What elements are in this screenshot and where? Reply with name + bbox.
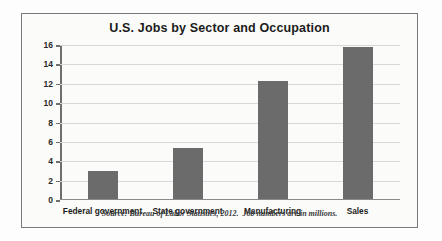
plot-area: 0246810121416 Federal governmentState go… (60, 45, 400, 200)
y-axis-tick (56, 64, 60, 66)
y-axis-tick (56, 84, 60, 86)
y-axis-tick-label: 16 (44, 40, 53, 50)
bar (343, 47, 373, 198)
y-axis-tick-label: 8 (48, 118, 53, 128)
y-axis-tick-label: 2 (48, 176, 53, 186)
y-axis-tick-label: 4 (48, 156, 53, 166)
y-axis-tick-label: 10 (44, 98, 53, 108)
y-axis-tick-label: 6 (48, 137, 53, 147)
y-axis-tick (56, 161, 60, 163)
chart-frame: U.S. Jobs by Sector and Occupation 02468… (21, 13, 418, 228)
bar (88, 171, 118, 198)
bar (258, 81, 288, 198)
bar (173, 148, 203, 198)
y-axis-tick (56, 181, 60, 183)
y-axis-tick (56, 200, 60, 202)
x-axis-line (60, 199, 400, 201)
y-axis-tick-label: 0 (48, 195, 53, 205)
y-axis-tick-label: 14 (44, 59, 53, 69)
source-note: Source: Bureau of Labor Statistics, 2012… (22, 209, 417, 218)
gridline (60, 45, 400, 46)
y-axis-tick (56, 142, 60, 144)
chart-page: U.S. Jobs by Sector and Occupation 02468… (0, 0, 442, 241)
y-axis-tick (56, 123, 60, 125)
y-axis-tick (56, 103, 60, 105)
chart-title: U.S. Jobs by Sector and Occupation (22, 21, 417, 35)
y-axis-tick-label: 12 (44, 79, 53, 89)
y-axis-tick (56, 45, 60, 47)
